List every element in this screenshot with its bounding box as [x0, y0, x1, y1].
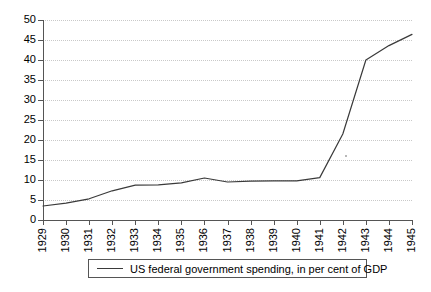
y-axis-tick-label: 25 — [2, 114, 36, 125]
y-axis-tick-label: 45 — [2, 34, 36, 45]
line-chart: 05101520253035404550 1929193019311932193… — [0, 0, 431, 292]
series-polyline — [43, 34, 412, 206]
x-axis-tick-label: 1935 — [175, 228, 186, 252]
y-axis-labels: 05101520253035404550 — [0, 0, 36, 292]
x-axis-tick-label: 1932 — [106, 228, 117, 252]
legend-line-swatch — [97, 268, 123, 269]
x-axis-tick-label: 1929 — [37, 228, 48, 252]
y-axis-tick-label: 10 — [2, 174, 36, 185]
scan-artifact-speck — [345, 155, 347, 157]
y-axis-tick-label: 40 — [2, 54, 36, 65]
x-axis-tick-label: 1941 — [314, 228, 325, 252]
y-axis-tick-label: 20 — [2, 134, 36, 145]
x-axis-tick-label: 1937 — [222, 228, 233, 252]
x-axis-tick — [412, 220, 413, 225]
y-axis-tick-label: 30 — [2, 94, 36, 105]
y-axis-tick-label: 35 — [2, 74, 36, 85]
x-axis-tick-label: 1940 — [291, 228, 302, 252]
y-axis-tick-label: 15 — [2, 154, 36, 165]
x-axis-tick-label: 1939 — [268, 228, 279, 252]
x-axis-tick-label: 1936 — [198, 228, 209, 252]
y-axis-tick-label: 0 — [2, 214, 36, 225]
chart-legend: US federal government spending, in per c… — [88, 259, 367, 278]
x-axis-tick-label: 1934 — [152, 228, 163, 252]
x-axis-tick-label: 1944 — [383, 228, 394, 252]
y-axis-tick-label: 50 — [2, 14, 36, 25]
x-axis-tick-label: 1942 — [337, 228, 348, 252]
x-axis-tick-label: 1933 — [129, 228, 140, 252]
series-line-spending — [43, 20, 412, 221]
y-axis-tick-label: 5 — [2, 194, 36, 205]
x-axis-tick-label: 1945 — [406, 228, 417, 252]
legend-label: US federal government spending, in per c… — [130, 263, 387, 275]
x-axis-tick-label: 1938 — [245, 228, 256, 252]
x-axis-tick-label: 1931 — [83, 228, 94, 252]
x-axis-tick-label: 1943 — [360, 228, 371, 252]
x-axis-tick-label: 1930 — [60, 228, 71, 252]
